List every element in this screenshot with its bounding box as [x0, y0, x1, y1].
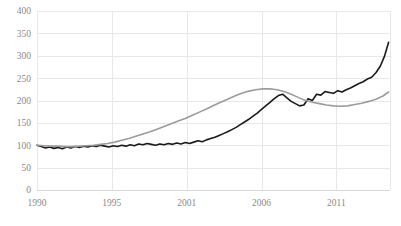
y-tick-label: 50: [22, 163, 32, 173]
y-tick-label: 200: [17, 96, 32, 106]
x-tick-label: 2006: [252, 198, 271, 208]
x-tick-label: 2011: [327, 198, 346, 208]
y-tick-label: 150: [17, 118, 32, 128]
chart-canvas: 050100150200250300350400 199019952001200…: [0, 0, 401, 226]
y-tick-label: 400: [17, 6, 32, 16]
x-tick-label: 2001: [177, 198, 196, 208]
series-layer: [37, 42, 389, 149]
gridlines: [37, 11, 391, 191]
y-tick-label: 350: [17, 29, 32, 39]
x-axis-ticks: 19901995200120062011: [28, 198, 346, 208]
y-tick-label: 250: [17, 74, 32, 84]
y-axis-ticks: 050100150200250300350400: [17, 6, 32, 195]
x-tick-label: 1995: [102, 198, 121, 208]
line-chart: 050100150200250300350400 199019952001200…: [0, 0, 401, 226]
x-tick-label: 1990: [28, 198, 47, 208]
y-tick-label: 0: [26, 185, 31, 195]
series-line-black-series: [37, 42, 389, 149]
y-tick-label: 100: [17, 141, 32, 151]
y-tick-label: 300: [17, 51, 32, 61]
